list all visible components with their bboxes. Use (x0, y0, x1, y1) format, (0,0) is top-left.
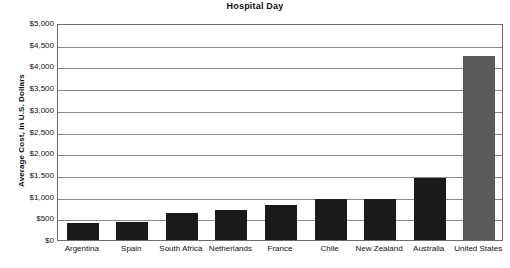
y-axis-tick-label: $2,000 (6, 150, 54, 158)
bar-south-africa[interactable] (166, 213, 198, 240)
y-axis-tick-label: $1,000 (6, 194, 54, 202)
y-axis-tick-labels: $5,000$4,500$4,000$3,500$3,000$2,500$2,0… (6, 24, 54, 241)
plot-area (57, 24, 503, 241)
chart-title: Hospital Day (0, 1, 510, 11)
y-axis-tick-label: $1,500 (6, 172, 54, 180)
y-axis-tick-label: $5,000 (6, 20, 54, 28)
y-axis-tick-label: $4,500 (6, 42, 54, 50)
bar-france[interactable] (265, 205, 297, 240)
y-axis-tick-label: $4,000 (6, 63, 54, 71)
x-axis-tick-label: United States (447, 244, 509, 254)
y-axis-tick-label: $3,000 (6, 107, 54, 115)
y-axis-tick-label: $2,500 (6, 129, 54, 137)
y-axis-tick-label: $3,500 (6, 85, 54, 93)
bar-argentina[interactable] (67, 223, 99, 240)
bars-group (58, 25, 502, 240)
x-axis-tick-labels: ArgentinaSpainSouth AfricaNetherlandsFra… (57, 244, 503, 258)
bar-chile[interactable] (315, 199, 347, 240)
y-axis-tick-label: $500 (6, 215, 54, 223)
bar-netherlands[interactable] (215, 210, 247, 240)
bar-spain[interactable] (116, 222, 148, 240)
bar-australia[interactable] (414, 178, 446, 240)
y-axis-tick-label: $0 (6, 237, 54, 245)
bar-new-zealand[interactable] (364, 199, 396, 240)
bar-united-states[interactable] (463, 56, 495, 240)
